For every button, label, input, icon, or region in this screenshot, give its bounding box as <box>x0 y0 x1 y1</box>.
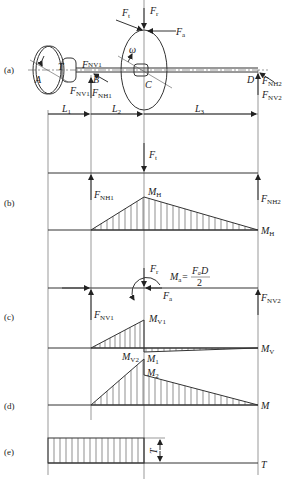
label-t: T <box>261 459 268 470</box>
omega-label: ω <box>129 44 136 55</box>
label-c-fa: Fa <box>162 290 173 303</box>
shaft-load-diagram: (a) (b) (c) (d) (e) A T B C D ω Ft Fr Fa… <box>0 0 300 479</box>
label-fnh1: FNH1 <box>91 87 112 100</box>
ma-formula: Ma= FₐD 2 <box>169 265 210 288</box>
torque-arc <box>41 56 44 66</box>
label-fnv1: FNV1 <box>69 85 90 98</box>
mv1-diagram <box>91 320 144 348</box>
label-t-dim: T <box>148 447 159 454</box>
ft-arrow <box>116 20 142 30</box>
label-m1: M1 <box>146 353 159 366</box>
label-mv1: MV1 <box>148 313 166 326</box>
diagram-canvas: (a) (b) (c) (d) (e) A T B C D ω Ft Fr Fa… <box>0 0 300 479</box>
mv2-diagram <box>144 348 258 352</box>
label-mh-peak: MH <box>147 186 161 199</box>
label-c-fnv2: FNV2 <box>260 292 281 305</box>
svg-text:Ma=: Ma= <box>169 271 188 284</box>
svg-text:2: 2 <box>197 277 202 288</box>
point-c: C <box>145 79 152 90</box>
label-mh: MH <box>260 225 274 238</box>
point-d: D <box>246 74 255 85</box>
label-b-fnh2: FNH2 <box>260 193 281 206</box>
label-fa: Fa <box>175 26 186 39</box>
label-m2: M2 <box>146 367 159 380</box>
label-b-fnh1: FNH1 <box>93 189 114 202</box>
svg-text:FₐD: FₐD <box>191 265 209 276</box>
label-mv2: MV2 <box>121 351 139 364</box>
omega-arrow <box>128 54 132 62</box>
point-a: A <box>34 74 42 85</box>
label-c-fnv1: FNV1 <box>93 309 114 322</box>
shaft-assembly <box>28 0 274 479</box>
point-b: B <box>93 74 99 85</box>
label-fnv2: FNV2 <box>261 89 282 102</box>
panel-label-a: (a) <box>4 65 14 75</box>
panel-label-b: (b) <box>4 198 15 208</box>
label-ft: Ft <box>121 7 130 20</box>
label-fr: Fr <box>149 5 159 18</box>
label-c-fr: Fr <box>149 263 159 276</box>
m-diagram <box>91 359 258 405</box>
resultant-moment <box>48 359 258 405</box>
label-fnv1-top: FNV1 <box>81 59 102 70</box>
label-b-ft: Ft <box>148 149 157 162</box>
label-fnh2: FNH2 <box>261 75 282 88</box>
panel-label-e: (e) <box>4 447 14 457</box>
ma-moment-arc <box>132 277 160 300</box>
panel-label-d: (d) <box>4 401 15 411</box>
label-m: M <box>260 400 270 411</box>
vertical-plane <box>48 268 258 352</box>
panel-label-c: (c) <box>4 312 14 322</box>
label-mv: MV <box>260 343 274 356</box>
